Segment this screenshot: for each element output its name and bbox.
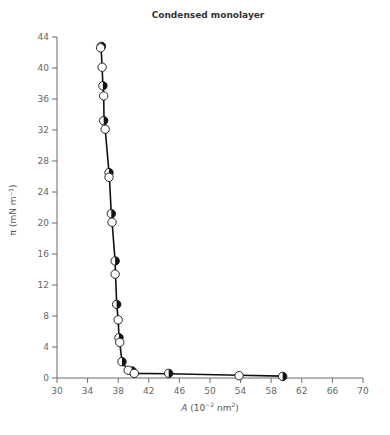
open-marker bbox=[108, 218, 116, 226]
x-tick-label: 54 bbox=[235, 386, 247, 396]
x-axis: 3034384246505458626670 bbox=[51, 378, 369, 396]
half-filled-marker bbox=[99, 82, 107, 90]
y-axis-title: π (mN m⁻¹) bbox=[8, 185, 18, 236]
x-tick-label: 38 bbox=[112, 386, 124, 396]
x-tick-label: 50 bbox=[204, 386, 216, 396]
y-tick-label: 28 bbox=[38, 156, 50, 166]
y-tick-label: 24 bbox=[38, 187, 50, 197]
y-tick-label: 32 bbox=[38, 125, 49, 135]
open-marker bbox=[116, 338, 124, 346]
isotherm-curve bbox=[101, 45, 283, 376]
open-marker bbox=[96, 44, 104, 52]
open-marker bbox=[99, 92, 107, 100]
open-marker bbox=[101, 125, 109, 133]
y-tick-label: 44 bbox=[38, 32, 50, 42]
half-filled-marker bbox=[164, 369, 172, 377]
open-marker bbox=[98, 63, 106, 71]
open-marker bbox=[111, 270, 119, 278]
open-marker bbox=[105, 173, 113, 181]
x-tick-label: 58 bbox=[265, 386, 277, 396]
x-tick-label: 34 bbox=[82, 386, 94, 396]
y-tick-label: 36 bbox=[38, 94, 50, 104]
y-tick-label: 16 bbox=[38, 249, 50, 259]
x-tick-label: 46 bbox=[174, 386, 186, 396]
open-marker bbox=[235, 371, 243, 379]
x-tick-label: 62 bbox=[296, 386, 307, 396]
x-tick-label: 66 bbox=[327, 386, 339, 396]
x-tick-label: 42 bbox=[143, 386, 154, 396]
x-tick-label: 70 bbox=[357, 386, 369, 396]
x-axis-title: A (10−2 nm2) bbox=[180, 401, 239, 413]
half-filled-marker bbox=[99, 117, 107, 125]
y-tick-label: 8 bbox=[43, 311, 49, 321]
half-filled-marker bbox=[112, 300, 120, 308]
half-filled-marker bbox=[111, 257, 119, 265]
half-filled-marker bbox=[107, 210, 115, 218]
open-marker bbox=[114, 316, 122, 324]
chart-plot: 048121620242832364044 303438424650545862… bbox=[0, 0, 390, 435]
data-markers bbox=[96, 42, 286, 381]
y-axis: 048121620242832364044 bbox=[38, 32, 57, 383]
open-marker bbox=[130, 369, 138, 377]
y-tick-label: 12 bbox=[38, 280, 49, 290]
half-filled-marker bbox=[278, 372, 286, 380]
y-tick-label: 4 bbox=[43, 342, 49, 352]
y-tick-label: 20 bbox=[38, 218, 50, 228]
y-tick-label: 40 bbox=[38, 63, 50, 73]
half-filled-marker bbox=[118, 358, 126, 366]
y-tick-label: 0 bbox=[43, 373, 49, 383]
x-tick-label: 30 bbox=[51, 386, 63, 396]
